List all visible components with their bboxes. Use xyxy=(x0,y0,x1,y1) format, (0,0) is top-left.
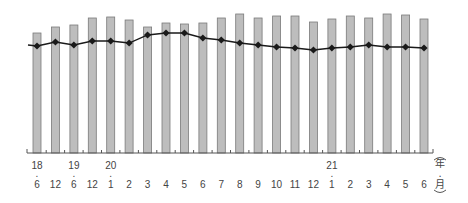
month-label: 6 xyxy=(71,179,77,190)
bar xyxy=(107,17,115,153)
separator-dot: . xyxy=(73,168,76,179)
month-label: 5 xyxy=(403,179,409,190)
bar xyxy=(254,18,262,153)
month-label: 2 xyxy=(126,179,132,190)
month-label: 6 xyxy=(421,179,427,190)
unit-label: 年.月 xyxy=(434,157,446,193)
month-label: 5 xyxy=(182,179,188,190)
bar xyxy=(51,27,59,153)
bar xyxy=(328,19,336,153)
bar xyxy=(402,15,410,153)
month-label: 6 xyxy=(200,179,206,190)
x-axis-labels: 18.61219.61220.12345678910111221.123456年… xyxy=(31,157,446,193)
month-label: 10 xyxy=(271,179,283,190)
month-label: 1 xyxy=(329,179,335,190)
month-label: 12 xyxy=(308,179,320,190)
bar xyxy=(144,27,152,153)
bar xyxy=(180,24,188,153)
month-label: 1 xyxy=(108,179,114,190)
month-label: 8 xyxy=(237,179,243,190)
separator-dot: . xyxy=(36,168,39,179)
separator-dot: . xyxy=(331,168,334,179)
bar xyxy=(383,14,391,153)
bar xyxy=(420,19,428,153)
bar xyxy=(273,16,281,153)
svg-text:.: . xyxy=(438,168,441,179)
month-label: 6 xyxy=(34,179,40,190)
month-label: 7 xyxy=(219,179,225,190)
month-label: 4 xyxy=(163,179,169,190)
bar xyxy=(162,23,170,153)
month-label: 3 xyxy=(366,179,372,190)
paren-close xyxy=(434,190,446,193)
bar xyxy=(291,16,299,153)
bar xyxy=(199,23,207,153)
bar-series xyxy=(33,14,428,153)
chart: 18.61219.61220.12345678910111221.123456年… xyxy=(0,0,468,203)
month-label: 11 xyxy=(290,179,301,190)
month-label: 4 xyxy=(384,179,390,190)
bar xyxy=(346,16,354,153)
bar xyxy=(309,22,317,153)
month-label: 3 xyxy=(145,179,151,190)
month-label: 12 xyxy=(50,179,62,190)
bar xyxy=(365,18,373,153)
bar xyxy=(236,14,244,153)
svg-text:月: 月 xyxy=(435,179,445,190)
month-label: 12 xyxy=(87,179,99,190)
separator-dot: . xyxy=(109,168,112,179)
bar xyxy=(33,33,41,153)
month-label: 9 xyxy=(255,179,261,190)
month-label: 2 xyxy=(348,179,354,190)
